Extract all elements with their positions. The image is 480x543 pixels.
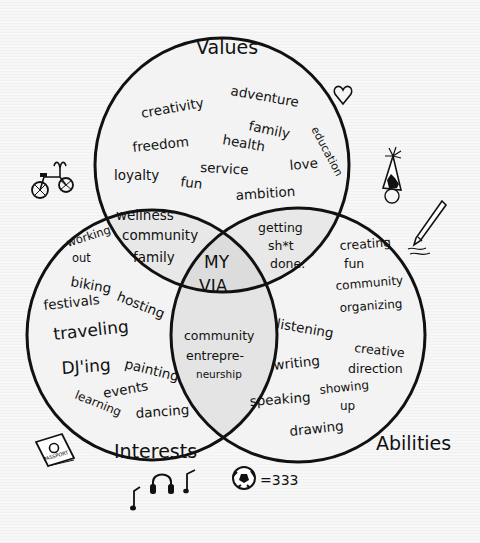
values-label: Values xyxy=(196,36,258,58)
word: fun xyxy=(180,173,204,192)
venn-diagram: Values Interests Abilities creativity ad… xyxy=(0,0,480,543)
word: community xyxy=(184,328,255,343)
word: DJ'ing xyxy=(61,355,111,378)
pencil-icon xyxy=(408,201,446,254)
word: up xyxy=(340,399,355,413)
music-note-icon xyxy=(183,470,195,493)
headphones-icon xyxy=(150,475,174,495)
word: sh*t xyxy=(268,238,294,253)
soccer-text: =333 xyxy=(260,472,298,488)
word: getting xyxy=(258,220,303,235)
center-label-line2: VIA xyxy=(199,276,228,296)
party-hat-icon xyxy=(383,147,401,203)
interests-label: Interests xyxy=(114,440,197,462)
word: loyalty xyxy=(114,167,159,183)
bicycle-icon xyxy=(32,162,73,198)
word: done. xyxy=(270,256,305,271)
center-label-line1: MY xyxy=(204,252,230,272)
heart-icon xyxy=(334,86,351,104)
word: love xyxy=(289,155,319,173)
word: family xyxy=(133,249,175,265)
word: wellness xyxy=(116,207,174,223)
word: direction xyxy=(348,361,403,376)
word: out xyxy=(72,251,91,265)
music-note-icon xyxy=(130,487,140,511)
word: community xyxy=(122,227,198,243)
abilities-label: Abilities xyxy=(376,432,451,454)
word: fun xyxy=(344,256,364,271)
word: neurship xyxy=(196,368,242,380)
passport-icon: PASSPORT xyxy=(36,434,74,466)
word: service xyxy=(200,159,249,178)
soccer-ball-icon xyxy=(233,467,255,489)
word: entrepre- xyxy=(186,348,244,363)
